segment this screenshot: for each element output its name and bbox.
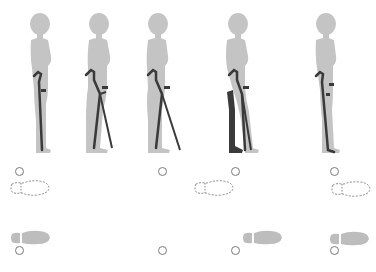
gait-step-1-figure — [14, 0, 74, 160]
gait-step-3-figure — [140, 0, 200, 160]
crutch-tip-marker-bottom-5 — [330, 246, 339, 255]
crutch-tip-marker-bottom-3 — [158, 246, 167, 255]
gait-step-4-figure — [215, 0, 275, 160]
gait-step-2-figure — [72, 0, 132, 160]
footprint-filled-icon — [10, 230, 52, 246]
footprint-filled-5 — [329, 231, 371, 247]
footprint-outline-icon — [9, 179, 51, 197]
footprint-filled-1 — [10, 230, 52, 246]
footprint-outline-5 — [330, 180, 372, 198]
footprint-outline-1 — [9, 179, 51, 197]
person-with-crutch-icon — [72, 0, 132, 160]
gait-step-5-figure — [300, 0, 360, 160]
crutch-tip-marker-bottom-1 — [15, 246, 24, 255]
footprint-filled-icon — [242, 230, 284, 246]
person-with-crutch-icon — [215, 0, 275, 160]
crutch-tip-marker-top-5 — [330, 167, 339, 176]
crutch-tip-marker-top-1 — [15, 167, 24, 176]
footprint-filled-4 — [242, 230, 284, 246]
footprint-outline-4 — [193, 179, 235, 197]
crutch-tip-marker-top-4 — [231, 167, 240, 176]
crutch-tip-marker-top-3 — [158, 167, 167, 176]
person-with-crutch-icon — [14, 0, 74, 160]
footprint-outline-icon — [193, 179, 235, 197]
person-with-crutch-icon — [300, 0, 360, 160]
crutch-tip-marker-bottom-4 — [231, 246, 240, 255]
footprint-filled-icon — [329, 231, 371, 247]
footprint-outline-icon — [330, 180, 372, 198]
person-with-crutch-icon — [140, 0, 200, 160]
